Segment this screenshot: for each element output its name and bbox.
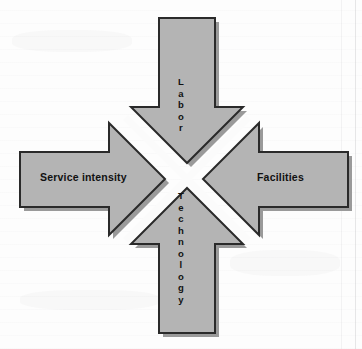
technology-letter: y xyxy=(178,294,183,306)
labor-letter: r xyxy=(179,122,183,134)
labor-letter: o xyxy=(178,111,184,123)
technology-letter: g xyxy=(178,282,184,294)
technology-letter: o xyxy=(178,248,184,260)
labor-letter: L xyxy=(178,76,184,88)
labor-letter: a xyxy=(178,88,183,100)
technology-letter: o xyxy=(178,271,184,283)
label-labor: Labor xyxy=(178,76,184,134)
technology-letter: n xyxy=(178,236,184,248)
label-service-intensity: Service intensity xyxy=(40,171,127,183)
technology-letter: e xyxy=(178,202,183,214)
technology-letter: h xyxy=(178,225,184,237)
technology-letter: l xyxy=(180,259,183,271)
labor-letter: b xyxy=(178,99,184,111)
technology-letter: c xyxy=(178,213,183,225)
label-facilities: Facilities xyxy=(257,171,304,183)
technology-letter: T xyxy=(178,190,184,202)
bottom-arrow-shape xyxy=(131,188,243,333)
label-technology: Technology xyxy=(178,190,184,305)
page-canvas: Service intensity Facilities Labor Techn… xyxy=(0,0,362,349)
